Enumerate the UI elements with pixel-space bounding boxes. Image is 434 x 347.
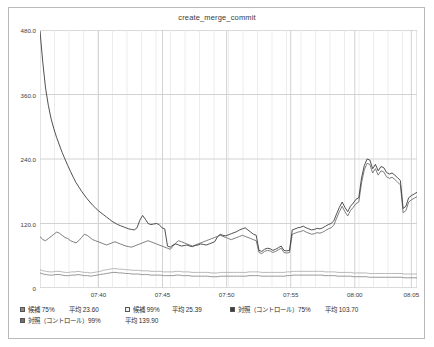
y-axis-tick: 240.0 — [21, 156, 36, 163]
y-axis-labels: 0120.0240.0360.0480.0 — [0, 30, 38, 288]
legend-series-name: 対照（コントロール）99% — [28, 316, 101, 325]
legend-series-name: 候補 99% — [133, 305, 160, 314]
chart-screenshot: create_merge_commit 0120.0240.0360.0480.… — [0, 0, 434, 347]
legend-swatch-icon — [125, 307, 130, 312]
x-axis-labels: 07:4007:4507:5007:5508:0008:05 — [40, 291, 417, 303]
chart-title: create_merge_commit — [0, 13, 434, 22]
x-axis-tick: 08:05 — [404, 291, 419, 298]
legend-swatch-icon — [230, 307, 235, 312]
chart-legend: 候補 75%平均 23.60候補 99%平均 25.39対照（コントロール）75… — [20, 305, 420, 327]
legend-series-average: 平均 139.90 — [125, 316, 158, 325]
legend-series-name: 対照（コントロール）75% — [238, 305, 311, 314]
y-axis-tick: 360.0 — [21, 91, 36, 98]
y-axis-tick: 480.0 — [21, 27, 36, 34]
x-axis-tick: 07:50 — [219, 291, 234, 298]
legend-row: 候補 75%平均 23.60候補 99%平均 25.39対照（コントロール）75… — [20, 305, 420, 316]
x-axis-tick: 07:45 — [155, 291, 170, 298]
legend-swatch-icon — [20, 318, 25, 323]
legend-row: 対照（コントロール）99%平均 139.90 — [20, 316, 420, 327]
plot-area — [40, 30, 417, 288]
legend-item[interactable]: 候補 99% — [125, 305, 160, 314]
x-axis-tick: 07:55 — [283, 291, 298, 298]
legend-series-average: 平均 25.39 — [172, 305, 202, 314]
x-axis-tick: 08:00 — [347, 291, 362, 298]
legend-series-average: 平均 23.60 — [69, 305, 99, 314]
plot-svg — [40, 30, 417, 288]
legend-item[interactable]: 対照（コントロール）99% — [20, 316, 101, 325]
y-axis-tick: 0 — [33, 285, 36, 292]
legend-item[interactable]: 候補 75% — [20, 305, 55, 314]
legend-series-name: 候補 75% — [28, 305, 55, 314]
legend-item[interactable]: 対照（コントロール）75% — [230, 305, 311, 314]
legend-series-average: 平均 103.70 — [325, 305, 358, 314]
y-axis-tick: 120.0 — [21, 220, 36, 227]
legend-swatch-icon — [20, 307, 25, 312]
x-axis-tick: 07:40 — [91, 291, 106, 298]
